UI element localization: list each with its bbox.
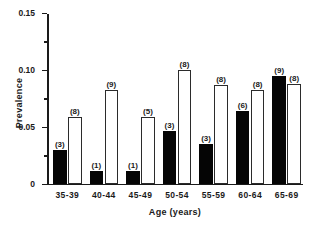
- y-tick-major: 0.10: [42, 70, 47, 71]
- bar-filled[interactable]: (3): [53, 150, 67, 183]
- y-axis-line: [47, 14, 49, 185]
- x-tick-label: 55-59: [202, 190, 226, 200]
- bar-open[interactable]: (8): [178, 70, 192, 184]
- bar-group: (6)(8)60-64: [236, 13, 265, 184]
- bar-filled[interactable]: (6): [236, 111, 250, 184]
- prevalence-by-age-bar-chart: Prevalence 00.050.100.15 (3)(8)35-39(1)(…: [0, 0, 311, 227]
- bar-group: (1)(9)40-44: [90, 13, 119, 184]
- bar-count-label: (8): [216, 75, 226, 84]
- y-tick-label: 0.05: [18, 122, 35, 132]
- bar-count-label: (9): [274, 66, 284, 75]
- y-tick-minor: [44, 41, 48, 42]
- x-tick-label: 35-39: [55, 190, 79, 200]
- bar-filled[interactable]: (1): [90, 171, 104, 184]
- bar-count-label: (3): [201, 134, 211, 143]
- x-tick-label: 65-69: [275, 190, 299, 200]
- bar-filled[interactable]: (9): [272, 76, 286, 183]
- x-axis-title: Age (years): [47, 207, 303, 217]
- bar-group: (3)(8)55-59: [199, 13, 228, 184]
- bar-count-label: (8): [253, 80, 263, 89]
- bar-open[interactable]: (9): [105, 90, 119, 183]
- x-tick-label: 40-44: [92, 190, 116, 200]
- caption-sliver: [6, 222, 306, 227]
- x-tick-label: 50-54: [165, 190, 189, 200]
- bar-count-label: (9): [106, 80, 116, 89]
- bar-count-label: (6): [238, 101, 248, 110]
- bar-open[interactable]: (5): [141, 117, 155, 183]
- bar-open[interactable]: (8): [214, 85, 228, 183]
- x-tick-label: 60-64: [238, 190, 262, 200]
- bar-filled[interactable]: (1): [126, 171, 140, 184]
- bar-count-label: (8): [289, 74, 299, 83]
- bar-open[interactable]: (8): [68, 117, 82, 183]
- bar-filled[interactable]: (3): [163, 131, 177, 183]
- bar-open[interactable]: (8): [251, 90, 265, 183]
- bar-count-label: (8): [70, 107, 80, 116]
- y-tick-major: 0.15: [42, 13, 47, 14]
- bar-group: (9)(8)65-69: [272, 13, 301, 184]
- bar-filled[interactable]: (3): [199, 144, 213, 184]
- x-tick-label: 45-49: [129, 190, 153, 200]
- bar-count-label: (8): [180, 60, 190, 69]
- bar-count-label: (1): [128, 161, 138, 170]
- bar-group: (1)(5)45-49: [126, 13, 155, 184]
- bar-count-label: (1): [91, 161, 101, 170]
- y-tick-minor: [44, 98, 48, 99]
- bar-count-label: (3): [55, 140, 65, 149]
- bar-group: (3)(8)50-54: [163, 13, 192, 184]
- x-axis-line: [47, 184, 303, 186]
- y-tick-minor: [44, 155, 48, 156]
- bar-count-label: (5): [143, 107, 153, 116]
- bar-open[interactable]: (8): [287, 84, 301, 183]
- bar-count-label: (3): [165, 121, 175, 130]
- y-tick-major: 0: [42, 184, 47, 185]
- y-tick-label: 0.10: [18, 65, 35, 75]
- y-tick-label: 0.15: [18, 8, 35, 18]
- plot-area: 00.050.100.15 (3)(8)35-39(1)(9)40-44(1)(…: [47, 14, 303, 185]
- y-tick-label: 0: [30, 179, 35, 189]
- bar-group: (3)(8)35-39: [53, 13, 82, 184]
- y-tick-major: 0.05: [42, 127, 47, 128]
